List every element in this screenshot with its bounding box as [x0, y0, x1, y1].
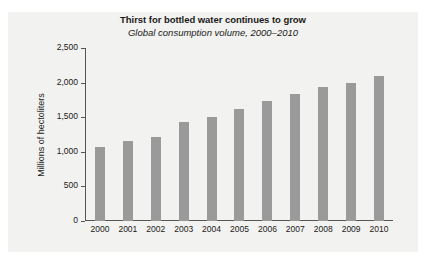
- bar: [262, 101, 272, 221]
- bar-group: 2010: [365, 48, 393, 221]
- y-axis-tick-mark: [81, 221, 85, 222]
- bar-series: 2000200120022003200420052006200720082009…: [86, 48, 393, 221]
- x-axis-tick-label: 2009: [342, 224, 361, 234]
- y-axis-tick-label: 500: [64, 180, 78, 190]
- bar-group: 2001: [114, 48, 142, 221]
- x-axis-tick-label: 2000: [90, 224, 109, 234]
- bar-group: 2000: [86, 48, 114, 221]
- x-axis-tick-label: 2001: [118, 224, 137, 234]
- y-axis-tick-label: 0: [73, 215, 78, 225]
- chart-title: Thirst for bottled water continues to gr…: [0, 14, 426, 26]
- y-axis-tick-label: 1,500: [57, 111, 78, 121]
- x-axis-tick-label: 2004: [202, 224, 221, 234]
- bar: [123, 141, 133, 221]
- bar-group: 2004: [198, 48, 226, 221]
- y-axis-tick-label: 2,500: [57, 42, 78, 52]
- y-axis-title-label: Millions of hectoliters: [36, 93, 46, 177]
- plot-area: 05001,0001,5002,0002,500 200020012002200…: [85, 48, 393, 221]
- bar-group: 2003: [170, 48, 198, 221]
- bar-group: 2002: [142, 48, 170, 221]
- y-axis-title: Millions of hectoliters: [34, 48, 48, 221]
- x-axis-tick-label: 2002: [146, 224, 165, 234]
- y-axis-tick-mark: [81, 48, 85, 49]
- x-axis-tick-label: 2007: [286, 224, 305, 234]
- bar: [95, 147, 105, 221]
- y-axis-tick-mark: [81, 117, 85, 118]
- bar-group: 2007: [281, 48, 309, 221]
- chart-title-block: Thirst for bottled water continues to gr…: [0, 14, 426, 39]
- chart-subtitle: Global consumption volume, 2000–2010: [0, 26, 426, 39]
- y-axis-tick-mark: [81, 186, 85, 187]
- bar: [290, 94, 300, 221]
- chart-figure: Thirst for bottled water continues to gr…: [0, 0, 426, 265]
- y-axis-tick-mark: [81, 152, 85, 153]
- x-axis-tick-label: 2005: [230, 224, 249, 234]
- bar: [318, 87, 328, 221]
- x-axis-tick-label: 2003: [174, 224, 193, 234]
- bar-group: 2008: [309, 48, 337, 221]
- bar: [207, 117, 217, 221]
- y-axis-tick-mark: [81, 83, 85, 84]
- bar: [374, 76, 384, 221]
- x-axis-tick-label: 2006: [258, 224, 277, 234]
- y-axis-tick-label: 2,000: [57, 77, 78, 87]
- bar: [151, 137, 161, 221]
- y-axis-tick: 0: [85, 221, 86, 222]
- bar: [234, 109, 244, 221]
- bar-group: 2009: [337, 48, 365, 221]
- x-axis-tick-label: 2008: [314, 224, 333, 234]
- bar: [179, 122, 189, 221]
- y-axis-tick-label: 1,000: [57, 146, 78, 156]
- bar-group: 2005: [226, 48, 254, 221]
- bar: [346, 83, 356, 221]
- x-axis-tick-label: 2010: [370, 224, 389, 234]
- bar-group: 2006: [253, 48, 281, 221]
